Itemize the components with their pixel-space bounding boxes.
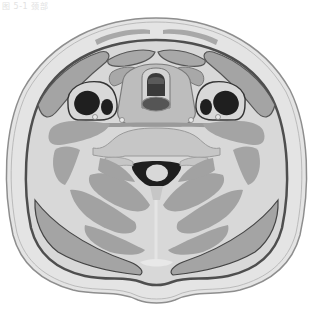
spinal-cord	[146, 165, 168, 182]
nerve-left-small	[120, 118, 125, 123]
neck-cross-section-diagram	[0, 0, 313, 316]
common-carotid-artery-right	[200, 99, 212, 115]
common-carotid-artery-left	[101, 99, 113, 115]
nerve-right-small	[189, 118, 194, 123]
airway	[147, 73, 165, 96]
vagus-nerve-right	[216, 115, 221, 120]
esophagus	[142, 97, 170, 111]
vagus-nerve-left	[93, 115, 98, 120]
